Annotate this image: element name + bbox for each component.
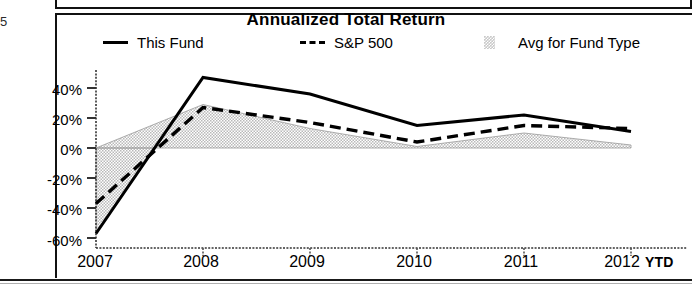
series-line-this-fund (96, 78, 631, 234)
x-axis-ytd-label: YTD (645, 254, 674, 270)
x-tick-label-1: 2008 (165, 253, 237, 270)
page-bottom-rule-secondary (0, 283, 692, 284)
page-bottom-rule (0, 279, 692, 281)
y-tick-label-4: -40% (20, 202, 82, 217)
x-tick-label-4: 2011 (485, 253, 557, 270)
x-tick-label-3: 2010 (378, 253, 450, 270)
y-tick-label-1: 20% (20, 112, 82, 127)
x-tick-label-2: 2009 (271, 253, 343, 270)
y-tick-label-3: -20% (20, 172, 82, 187)
y-axis-ticks (87, 88, 96, 238)
y-tick-label-5: -60% (20, 233, 82, 248)
series-area-avg-fund-type (96, 105, 631, 234)
y-tick-label-2: 0% (20, 142, 82, 157)
x-tick-label-0: 2007 (59, 253, 131, 270)
scanned-page: 5 Annualized Total Return This Fund S&P … (0, 0, 692, 304)
y-tick-label-0: 40% (20, 82, 82, 97)
